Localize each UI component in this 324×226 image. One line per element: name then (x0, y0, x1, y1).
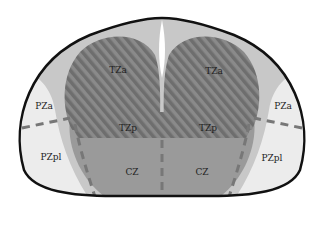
gland-interior (0, 0, 324, 226)
label-tza-right: TZa (205, 66, 223, 76)
label-pzpl-left: PZpl (41, 152, 62, 162)
label-cz-left: CZ (125, 167, 138, 177)
prostate-diagram (0, 0, 324, 226)
label-cz-right: CZ (195, 167, 208, 177)
label-tzp-left: TZp (119, 123, 137, 133)
label-tza-left: TZa (109, 65, 127, 75)
label-tzp-right: TZp (199, 123, 217, 133)
transition-zone-posterior (70, 112, 254, 138)
label-pza-right: PZa (274, 101, 292, 111)
label-pzpl-right: PZpl (262, 153, 283, 163)
label-pza-left: PZa (35, 101, 53, 111)
